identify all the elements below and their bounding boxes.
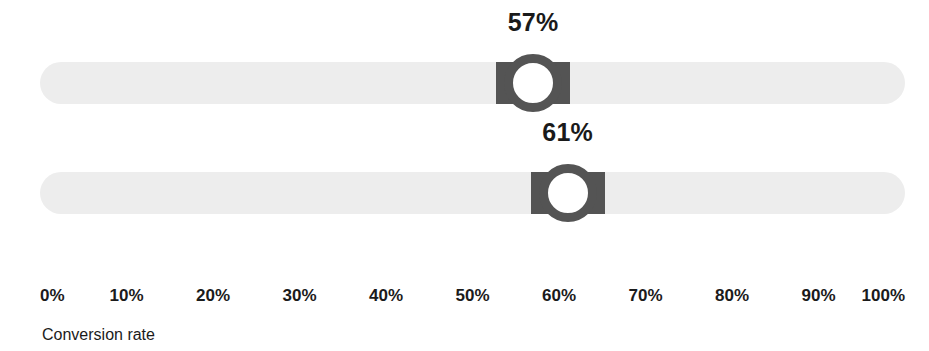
axis-tick-40: 40%	[369, 286, 403, 306]
axis-tick-50: 50%	[455, 286, 489, 306]
slider-row-2[interactable]: 61%	[40, 172, 905, 214]
slider-row-1[interactable]: 57%	[40, 62, 905, 104]
slider-thumb-1[interactable]: 57%	[496, 54, 570, 112]
axis-tick-80: 80%	[715, 286, 749, 306]
slider-value-label-1: 57%	[508, 8, 559, 37]
axis-tick-0: 0%	[40, 286, 65, 306]
axis-title: Conversion rate	[42, 326, 155, 344]
slider-thumb-2[interactable]: 61%	[531, 164, 605, 222]
slider-track-2[interactable]	[40, 172, 905, 214]
slider-thumb-ring-1	[504, 54, 562, 112]
slider-track-1[interactable]	[40, 62, 905, 104]
axis-tick-labels: 0%10%20%30%40%50%60%70%80%90%100%	[40, 286, 905, 308]
slider-value-label-2: 61%	[542, 118, 593, 147]
axis-tick-10: 10%	[109, 286, 143, 306]
axis-tick-60: 60%	[542, 286, 576, 306]
slider-thumb-ring-2	[539, 164, 597, 222]
axis-tick-30: 30%	[282, 286, 316, 306]
axis-tick-100: 100%	[862, 286, 905, 306]
axis-tick-20: 20%	[196, 286, 230, 306]
axis-tick-90: 90%	[801, 286, 835, 306]
slider-chart: 57% 61% 0%10%20%30%40%50%60%70%80%90%100…	[0, 0, 929, 351]
axis-tick-70: 70%	[628, 286, 662, 306]
